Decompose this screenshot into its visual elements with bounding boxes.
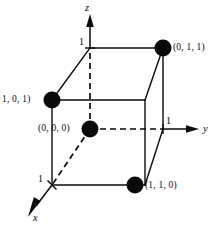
- vertex-marker-011: [155, 40, 172, 57]
- cube-front-face-edges: [52, 100, 145, 185]
- z-tick-label: 1: [79, 36, 84, 47]
- vertex-label-origin: (0, 0, 0): [38, 123, 70, 133]
- vertex-marker-origin: [82, 121, 99, 138]
- vertex-marker-101: [44, 92, 61, 109]
- y-tick-label: 1: [166, 115, 171, 126]
- unit-cube-figure: (0, 1, 1) 1, 0, 1) (0, 0, 0) (1, 1, 0) 1…: [0, 0, 222, 227]
- edge-depth-bottom-right: [145, 129, 163, 185]
- hidden-edge-origin-to-x: [52, 129, 90, 185]
- cube-depth-edges: [52, 48, 163, 185]
- cube-hidden-edges: [52, 48, 163, 185]
- x-axis-label: x: [33, 212, 38, 223]
- cube-diagram-svg: [0, 0, 222, 227]
- vertex-marker-110: [127, 177, 144, 194]
- x-tick-label: 1: [38, 173, 43, 184]
- y-axis-arrowhead: [186, 125, 199, 133]
- z-axis-label: z: [85, 2, 89, 13]
- cube-back-face-edges: [90, 48, 163, 129]
- vertex-label-101: 1, 0, 1): [2, 94, 31, 104]
- vertex-label-110: (1, 1, 0): [145, 180, 177, 190]
- z-axis-arrowhead: [86, 14, 94, 27]
- vertex-label-011: (0, 1, 1): [173, 42, 205, 52]
- edge-depth-top-left: [52, 48, 90, 100]
- y-axis-label: y: [203, 123, 208, 134]
